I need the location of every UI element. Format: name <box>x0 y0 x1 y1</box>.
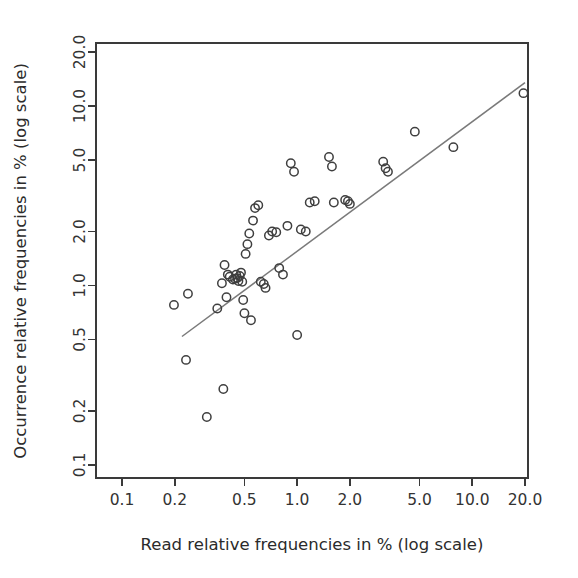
data-points <box>170 89 528 421</box>
x-tick-label: 0.5 <box>232 491 257 509</box>
x-tick-label: 1.0 <box>285 491 310 509</box>
data-point <box>287 159 295 167</box>
data-point <box>241 250 249 258</box>
data-point <box>243 240 251 248</box>
data-point <box>449 143 457 151</box>
data-point <box>325 153 333 161</box>
regression-line <box>182 83 525 337</box>
data-point <box>220 261 228 269</box>
data-point <box>182 356 190 364</box>
y-axis-ticks: 0.10.20.51.02.05.010.020.0 <box>71 35 96 478</box>
y-tick-label: 0.1 <box>71 453 89 478</box>
data-point <box>279 270 287 278</box>
data-point <box>218 279 226 287</box>
data-point <box>290 168 298 176</box>
x-tick-label: 2.0 <box>338 491 363 509</box>
y-tick-label: 10.0 <box>71 89 89 124</box>
data-point <box>247 316 255 324</box>
x-axis-title: Read relative frequencies in % (log scal… <box>141 535 484 554</box>
fit-line <box>182 83 525 337</box>
scatter-plot-figure: 0.10.20.51.02.05.010.020.0 0.10.20.51.02… <box>0 0 578 578</box>
x-tick-label: 20.0 <box>508 491 543 509</box>
data-point <box>239 296 247 304</box>
y-axis-title: Occurrence relative frequencies in % (lo… <box>11 63 30 459</box>
plot-frame <box>96 43 528 478</box>
y-tick-label: 0.2 <box>71 399 89 424</box>
data-point <box>283 222 291 230</box>
data-point <box>411 127 419 135</box>
data-point <box>222 293 230 301</box>
y-tick-label: 2.0 <box>71 219 89 244</box>
y-tick-label: 0.5 <box>71 327 89 352</box>
data-point <box>219 385 227 393</box>
x-tick-label: 0.2 <box>162 491 187 509</box>
x-tick-label: 0.1 <box>110 491 135 509</box>
data-point <box>184 290 192 298</box>
data-point <box>249 216 257 224</box>
data-point <box>203 413 211 421</box>
x-axis-ticks: 0.10.20.51.02.05.010.020.0 <box>110 478 543 509</box>
data-point <box>245 229 253 237</box>
data-point <box>302 227 310 235</box>
data-point <box>240 309 248 317</box>
y-tick-label: 20.0 <box>71 35 89 70</box>
x-tick-label: 10.0 <box>455 491 490 509</box>
y-tick-label: 1.0 <box>71 273 89 298</box>
data-point <box>293 331 301 339</box>
x-tick-label: 5.0 <box>407 491 432 509</box>
data-point <box>330 198 338 206</box>
data-point <box>311 197 319 205</box>
data-point <box>170 301 178 309</box>
y-tick-label: 5.0 <box>71 148 89 173</box>
plot-canvas: 0.10.20.51.02.05.010.020.0 0.10.20.51.02… <box>0 0 578 578</box>
data-point <box>519 89 527 97</box>
data-point <box>297 225 305 233</box>
data-point <box>328 162 336 170</box>
